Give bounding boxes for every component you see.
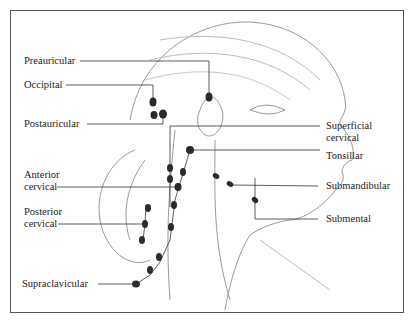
label-line: cervical — [24, 181, 60, 193]
label-submandibular: Submandibular — [326, 180, 390, 192]
head-sketch — [99, 22, 353, 310]
label-line: Anterior — [24, 169, 60, 181]
label-line: cervical — [24, 218, 62, 230]
label-line: Posterior — [24, 206, 62, 218]
label-preauricular: Preauricular — [24, 55, 75, 67]
label-line: cervical — [326, 132, 372, 144]
label-submental: Submental — [326, 213, 371, 225]
label-postauricular: Postauricular — [24, 118, 79, 130]
label-line: Superficial — [326, 120, 372, 132]
label-occipital: Occipital — [24, 79, 62, 91]
label-tonsillar: Tonsillar — [326, 150, 363, 162]
label-posterior-cervical: Posterior cervical — [24, 206, 62, 230]
lymph-nodes — [132, 93, 259, 288]
label-superficial-cervical: Superficial cervical — [326, 120, 372, 144]
label-anterior-cervical: Anterior cervical — [24, 169, 60, 193]
leader-lines — [57, 61, 320, 284]
label-supraclavicular: Supraclavicular — [22, 278, 88, 290]
